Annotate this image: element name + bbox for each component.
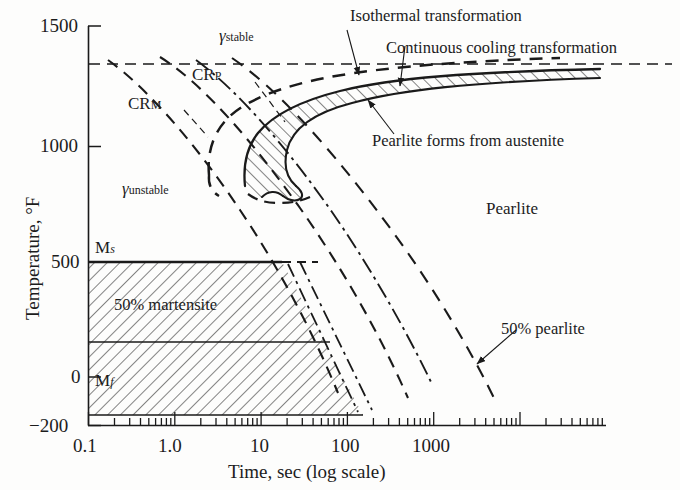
y-tick-1000: 1000	[40, 136, 78, 155]
unstable-subscript: unstable	[129, 183, 169, 197]
y-axis-title-text: Temperature,	[22, 215, 43, 320]
cr-text-m: CR	[128, 94, 151, 113]
m-glyph-s: M	[95, 238, 110, 257]
m-glyph-f: M	[95, 371, 110, 390]
y-tick-0: 0	[71, 367, 81, 386]
crp-label: CRP	[192, 66, 221, 83]
cr-text-p: CR	[192, 65, 215, 84]
ms-label: Ms	[95, 239, 115, 256]
leader-pearlite-austenite	[368, 100, 394, 134]
x-tick-1.0: 1.0	[158, 436, 182, 455]
mf-label: Mf	[95, 372, 113, 389]
pearlite-region-label: Pearlite	[486, 200, 538, 217]
fifty-percent-martensite-label: 50% martensite	[114, 297, 217, 314]
martensite-region	[89, 262, 363, 415]
isothermal-transformation-label: Isothermal transformation	[350, 8, 522, 25]
leader-crm	[184, 110, 208, 137]
gamma-unstable-label: γunstable	[122, 180, 169, 197]
gamma-glyph-2: γ	[122, 179, 129, 198]
pearlite-from-austenite-label: Pearlite forms from austenite	[372, 133, 564, 150]
y-axis-title: Temperature, °F	[22, 197, 44, 320]
crm-subscript: M	[151, 98, 162, 112]
x-tick-10: 10	[250, 436, 269, 455]
gamma-stable-label: γstable	[219, 27, 254, 44]
leader-isothermal	[347, 30, 359, 75]
ms-subscript: s	[110, 242, 115, 256]
x-tick-100: 100	[331, 436, 360, 455]
y-tick-1500: 1500	[40, 16, 78, 35]
mf-subscript: f	[110, 375, 113, 389]
ttt-cct-diagram: 1500 1000 500 0 −200 0.1 1.0 10 100 1000…	[0, 0, 680, 490]
continuous-cooling-label: Continuous cooling transformation	[386, 40, 617, 57]
x-tick-1000: 1000	[412, 436, 450, 455]
stable-subscript: stable	[226, 30, 254, 44]
crm-label: CRM	[128, 95, 161, 112]
y-tick-minus200: −200	[29, 416, 68, 435]
fifty-percent-pearlite-label: 50% pearlite	[501, 321, 585, 338]
y-tick-500: 500	[51, 252, 80, 271]
x-axis-title: Time, sec (log scale)	[228, 462, 386, 481]
y-axis-unit: °F	[22, 197, 43, 215]
crp-subscript: P	[215, 69, 222, 83]
x-tick-0.1: 0.1	[73, 436, 97, 455]
gamma-glyph: γ	[219, 26, 226, 45]
